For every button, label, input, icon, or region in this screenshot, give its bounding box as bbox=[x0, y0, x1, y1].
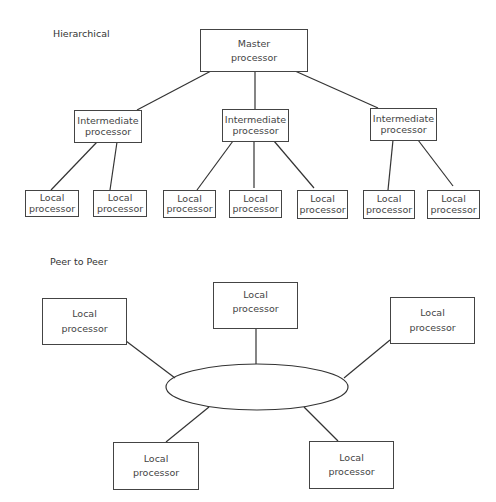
local-processor-box-5: Local processor bbox=[297, 190, 348, 219]
peer-left-line1: Local bbox=[72, 307, 97, 321]
master-line2: processor bbox=[231, 51, 277, 65]
local-6-line1: Local bbox=[377, 194, 402, 204]
intermediate-2-line1: Intermediate bbox=[225, 115, 286, 126]
intermediate-2-line2: processor bbox=[232, 126, 278, 137]
local-3-line2: processor bbox=[166, 204, 212, 214]
local-7-line2: processor bbox=[430, 205, 476, 215]
intermediate-3-line2: processor bbox=[380, 125, 426, 136]
edge-peer-left bbox=[126, 341, 175, 378]
peer-right-line2: processor bbox=[409, 321, 455, 335]
local-5-line2: processor bbox=[299, 205, 345, 215]
intermediate-1-line1: Intermediate bbox=[77, 116, 138, 127]
peer-bottom-left-line2: processor bbox=[133, 466, 179, 480]
local-5-line1: Local bbox=[310, 194, 335, 204]
peer-node-top: Local processor bbox=[213, 282, 298, 329]
peer-node-bottom-right: Local processor bbox=[309, 441, 394, 489]
local-7-line1: Local bbox=[441, 194, 466, 204]
local-6-line2: processor bbox=[366, 205, 412, 215]
peer-node-left: Local processor bbox=[42, 298, 127, 345]
local-4-line2: processor bbox=[232, 204, 278, 214]
edge-peer-right bbox=[344, 340, 390, 378]
edge-int3-local7 bbox=[418, 140, 453, 186]
peer-node-right: Local processor bbox=[390, 297, 475, 344]
intermediate-1-line2: processor bbox=[85, 127, 131, 138]
edge-int1-local1 bbox=[51, 142, 97, 190]
peer-bottom-right-line2: processor bbox=[328, 465, 374, 479]
local-processor-box-6: Local processor bbox=[363, 190, 415, 219]
master-line1: Master bbox=[238, 37, 270, 51]
peer-node-bottom-left: Local processor bbox=[113, 442, 199, 490]
edge-int2-local5 bbox=[274, 141, 314, 188]
edge-master-int3 bbox=[295, 71, 378, 108]
peer-bottom-right-line1: Local bbox=[339, 451, 364, 465]
hierarchical-title: Hierarchical bbox=[53, 28, 110, 39]
master-processor-box: Master processor bbox=[200, 29, 308, 72]
local-processor-box-4: Local processor bbox=[229, 190, 282, 218]
peer-to-peer-title: Peer to Peer bbox=[50, 256, 108, 267]
local-processor-box-1: Local processor bbox=[25, 190, 79, 217]
shared-bus-ellipse bbox=[166, 364, 348, 410]
local-processor-box-3: Local processor bbox=[163, 190, 216, 218]
peer-left-line2: processor bbox=[61, 322, 107, 336]
edge-peer-bottom-right bbox=[304, 407, 338, 441]
edge-int3-local6 bbox=[388, 140, 393, 190]
edge-peer-bottom-left bbox=[166, 407, 209, 442]
local-processor-box-2: Local processor bbox=[93, 190, 147, 217]
intermediate-processor-box-2: Intermediate processor bbox=[222, 109, 289, 142]
peer-top-line1: Local bbox=[243, 288, 268, 302]
peer-right-line1: Local bbox=[420, 306, 445, 320]
local-2-line2: processor bbox=[97, 204, 143, 214]
local-processor-box-7: Local processor bbox=[427, 190, 480, 219]
local-1-line2: processor bbox=[29, 204, 75, 214]
peer-top-line2: processor bbox=[232, 302, 278, 316]
intermediate-3-line1: Intermediate bbox=[373, 114, 434, 125]
connector-lines bbox=[0, 0, 496, 502]
local-2-line1: Local bbox=[108, 193, 133, 203]
edge-master-int1 bbox=[137, 71, 211, 110]
intermediate-processor-box-1: Intermediate processor bbox=[74, 110, 142, 143]
peer-bottom-left-line1: Local bbox=[144, 452, 169, 466]
edge-int1-local2 bbox=[110, 142, 117, 190]
intermediate-processor-box-3: Intermediate processor bbox=[370, 108, 437, 141]
edge-int2-local3 bbox=[197, 141, 233, 190]
local-1-line1: Local bbox=[40, 193, 65, 203]
